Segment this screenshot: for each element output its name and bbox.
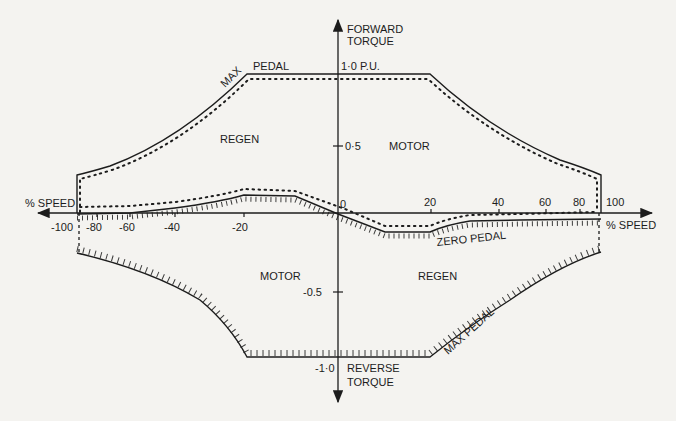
tick-80: 80 bbox=[573, 196, 585, 208]
neg-one-label: -1·0 bbox=[315, 362, 335, 374]
tick-40: 40 bbox=[492, 196, 504, 208]
torque-speed-diagram: FORWARD TORQUE 1·0 P.U. PEDAL MAX 0·5 -0… bbox=[0, 0, 676, 421]
speed-left-label: % SPEED bbox=[25, 197, 75, 209]
max-label: MAX bbox=[218, 64, 244, 90]
half-label: 0·5 bbox=[345, 140, 361, 152]
zero-pedal-hatch-marks bbox=[77, 199, 601, 236]
max-pedal-bottom-label: MAX PEDAL bbox=[441, 305, 496, 356]
tick-60: 60 bbox=[539, 196, 551, 208]
regen-top-left: REGEN bbox=[220, 133, 259, 145]
reverse-max-pedal-curve bbox=[77, 252, 601, 357]
motor-top-right: MOTOR bbox=[389, 140, 430, 152]
motor-bottom-left: MOTOR bbox=[260, 270, 301, 282]
reverse-torque-label-2: TORQUE bbox=[347, 376, 394, 388]
tick-100: 100 bbox=[606, 196, 624, 208]
forward-torque-label: FORWARD bbox=[347, 23, 403, 35]
speed-right-label: % SPEED bbox=[606, 219, 656, 231]
pu-label: 1·0 P.U. bbox=[341, 60, 380, 72]
zero-pedal-label: ZERO PEDAL bbox=[436, 229, 507, 248]
reverse-torque-label: REVERSE bbox=[347, 362, 400, 374]
tick-neg-100: -100 bbox=[51, 221, 73, 233]
reverse-max-pedal-hatch-marks bbox=[77, 248, 601, 353]
tick-neg-80: -80 bbox=[86, 221, 102, 233]
tick-neg-60: -60 bbox=[119, 221, 135, 233]
regen-bottom-right: REGEN bbox=[418, 270, 457, 282]
neg-half-label: -0.5 bbox=[303, 286, 322, 298]
tick-neg-40: -40 bbox=[164, 221, 180, 233]
tick-20: 20 bbox=[424, 196, 436, 208]
tick-neg-20: -20 bbox=[232, 221, 248, 233]
forward-max-pedal-curve bbox=[77, 74, 601, 213]
forward-torque-label-2: TORQUE bbox=[347, 35, 394, 47]
pedal-label: PEDAL bbox=[253, 60, 289, 72]
tick-0: 0 bbox=[340, 198, 346, 210]
